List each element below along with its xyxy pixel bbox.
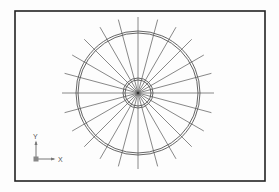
ucs-icon: Y X xyxy=(33,133,63,163)
drawing-canvas[interactable]: Y X xyxy=(0,0,279,192)
ucs-y-label: Y xyxy=(33,133,38,140)
ucs-x-label: X xyxy=(58,156,63,163)
center-point xyxy=(137,92,140,95)
cad-drawing[interactable]: Y X xyxy=(0,0,279,192)
